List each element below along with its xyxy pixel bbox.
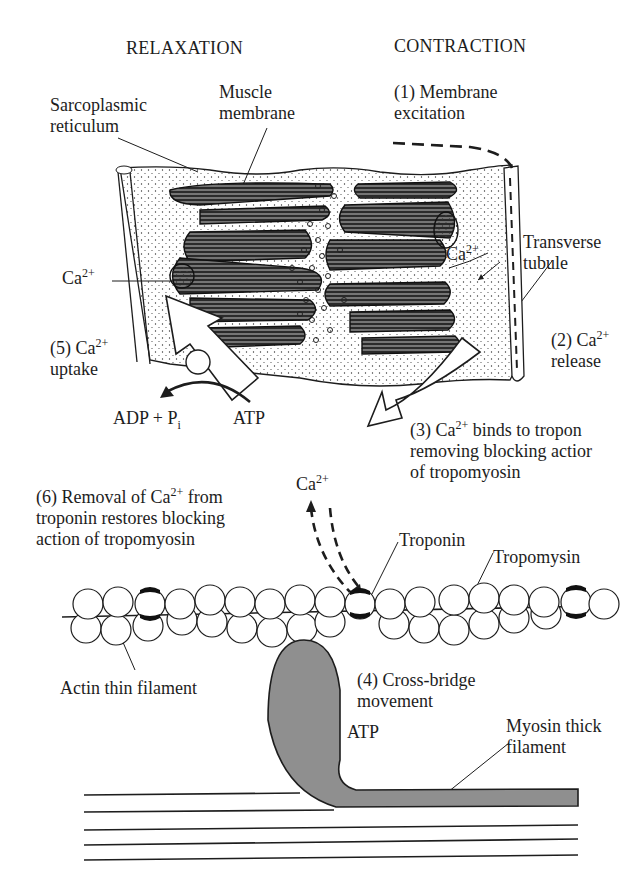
contraction-header: CONTRACTION	[394, 36, 526, 57]
transverse-tubule-label: Transverse tubule	[523, 232, 601, 274]
step6-removal-of-ca-label: (6) Removal of Ca2+ from troponin restor…	[36, 487, 225, 550]
ca-ion-label-middle: Ca2+	[296, 474, 329, 495]
atp-label-bottom: ATP	[347, 722, 379, 743]
atp-label-top: ATP	[233, 408, 265, 429]
troponin-label: Troponin	[399, 530, 465, 551]
tropomysin-label: Tropomysin	[493, 547, 580, 568]
step4-cross-bridge-label: (4) Cross-bridge movement	[357, 670, 475, 712]
actin-thin-filament-label: Actin thin filament	[60, 678, 197, 699]
excitation-dashed-path	[393, 143, 512, 168]
step1-membrane-excitation-label: (1) Membrane excitation	[394, 82, 497, 124]
ca-pump-icon	[186, 350, 210, 374]
ca-ion-label-right: Ca2+	[446, 244, 479, 265]
muscle-membrane-label: Muscle membrane	[219, 82, 295, 124]
actin-thin-filament	[62, 583, 619, 647]
step5-ca-uptake-label: (5) Ca2+ uptake	[50, 338, 108, 380]
myosin-thick-filament-label: Myosin thick filament	[506, 716, 602, 758]
ca-ion-label-left: Ca2+	[62, 268, 95, 289]
calcium-dashed-arrows	[311, 508, 358, 592]
step3-ca-binds-troponin-label: (3) Ca2+ binds to tropon removing blocki…	[410, 420, 592, 483]
relaxation-header: RELAXATION	[126, 38, 243, 59]
step2-ca-release-label: (2) Ca2+ release	[551, 330, 609, 372]
adp-pi-label: ADP + Pi	[113, 408, 181, 429]
sarcoplasmic-reticulum-label: Sarcoplasmic reticulum	[50, 95, 147, 137]
